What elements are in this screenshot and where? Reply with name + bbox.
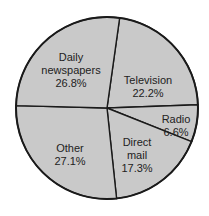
label-other: Other 27.1% (54, 142, 85, 168)
label-direct-mail-name-2: mail (121, 149, 152, 162)
label-direct-mail: Direct mail 17.3% (121, 136, 152, 175)
label-radio-value: 6.6% (162, 126, 191, 139)
label-radio: Radio 6.6% (162, 113, 191, 139)
label-television-value: 22.2% (124, 87, 172, 100)
label-television-name: Television (124, 74, 172, 87)
label-daily-newspapers: Daily newspapers 26.8% (41, 51, 100, 90)
label-television: Television 22.2% (124, 74, 172, 100)
label-radio-name: Radio (162, 113, 191, 126)
label-direct-mail-name: Direct (121, 136, 152, 149)
label-direct-mail-value: 17.3% (121, 162, 152, 175)
label-other-value: 27.1% (54, 155, 85, 168)
label-daily-newspapers-value: 26.8% (41, 77, 100, 90)
pie-chart (0, 0, 209, 216)
label-other-name: Other (54, 142, 85, 155)
label-daily-newspapers-name: Daily (41, 51, 100, 64)
label-daily-newspapers-name-2: newspapers (41, 64, 100, 77)
